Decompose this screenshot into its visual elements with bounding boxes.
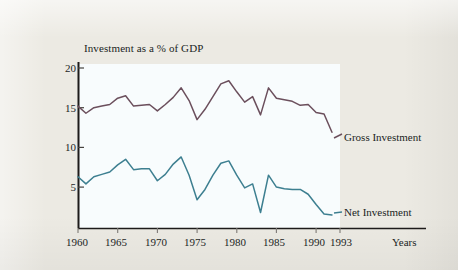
series-leader-net-investment [334,212,342,213]
chart-plot-svg [0,0,458,270]
series-line-gross-investment [78,81,332,133]
series-leader-gross-investment [334,134,342,138]
chart-area: Investment as a % of GDP 20 15 10 5 1960… [0,0,458,270]
series-line-net-investment [78,157,332,215]
figure-container: Investment as a % of GDP 20 15 10 5 1960… [0,0,458,270]
